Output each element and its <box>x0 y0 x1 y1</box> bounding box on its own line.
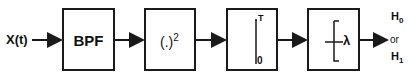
output-h1: H1 <box>391 50 403 65</box>
h1-subscript: 1 <box>399 56 403 65</box>
threshold-block: λ <box>307 8 360 71</box>
output-or: or <box>390 34 399 45</box>
integral-icon <box>228 10 280 73</box>
h0-subscript: 0 <box>399 16 403 25</box>
bpf-label: BPF <box>64 32 113 49</box>
bpf-block: BPF <box>62 8 115 71</box>
h0-text: H <box>391 10 399 22</box>
square-exponent: 2 <box>173 32 179 43</box>
integral-upper-limit: T <box>258 13 264 23</box>
integrator-block: T 0 <box>226 8 278 71</box>
h1-text: H <box>391 50 399 62</box>
input-signal-label: X(t) <box>6 32 28 47</box>
square-op: (.) <box>160 34 173 50</box>
square-label: (.)2 <box>160 32 179 50</box>
threshold-lambda: λ <box>343 33 350 48</box>
output-h0: H0 <box>391 10 403 25</box>
square-law-block: (.)2 <box>144 8 196 71</box>
integral-lower-limit: 0 <box>257 55 263 66</box>
threshold-step-icon <box>309 10 362 73</box>
